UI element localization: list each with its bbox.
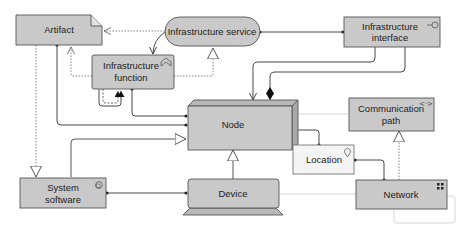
location-label: Location [306, 154, 342, 165]
infrastructure-interface-label-line1: Infrastructure [362, 21, 418, 32]
element-artifact[interactable]: Artifact [16, 15, 102, 45]
infrastructure-function-label-line2: function [114, 72, 147, 83]
node-icon [188, 100, 298, 106]
infrastructure-function-label-line1: Infrastructure [103, 60, 159, 71]
element-device[interactable]: Device [183, 179, 283, 215]
relation-systemsoftware-node[interactable] [71, 139, 186, 177]
relation-location-network[interactable] [355, 160, 384, 180]
element-system-software[interactable]: System software [20, 178, 106, 208]
archimate-diagram-canvas: Artifact Infrastructure service Infrastr… [0, 0, 472, 235]
communication-path-label-line1: Communication [358, 103, 424, 114]
system-software-label-line1: System [47, 182, 79, 193]
relation-function-node[interactable] [132, 89, 186, 116]
element-node[interactable]: Node [188, 100, 298, 150]
element-infrastructure-function[interactable]: Infrastructure function [92, 55, 174, 89]
element-infrastructure-interface[interactable]: Infrastructure interface [344, 17, 440, 47]
infrastructure-service-label: Infrastructure service [168, 26, 257, 37]
relation-service-function[interactable] [153, 32, 165, 54]
system-software-label-line2: software [45, 194, 81, 205]
element-location[interactable]: Location [293, 145, 354, 174]
relation-interface-node-composition[interactable] [270, 47, 405, 100]
element-communication-path[interactable]: <·> Communication path [349, 98, 434, 131]
network-label: Network [384, 189, 419, 200]
relation-function-self-flow[interactable] [103, 89, 118, 103]
element-infrastructure-service[interactable]: Infrastructure service [165, 17, 260, 46]
relation-function-service[interactable] [174, 48, 213, 76]
device-icon [183, 208, 283, 215]
artifact-label: Artifact [44, 24, 74, 35]
relation-function-artifact[interactable] [71, 47, 92, 76]
communication-path-label-line2: path [382, 115, 401, 126]
element-network[interactable]: Network [356, 180, 447, 209]
node-label: Node [222, 119, 245, 130]
device-label: Device [218, 188, 247, 199]
infrastructure-interface-label-line2: interface [372, 32, 408, 43]
